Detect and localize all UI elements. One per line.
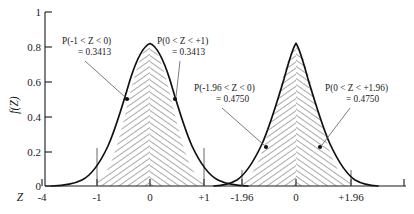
annotation-1-leader-line bbox=[85, 61, 125, 97]
y-tick-label-06: 0.6 bbox=[27, 76, 41, 88]
annotation-2-line-2: = 0.3413 bbox=[172, 47, 205, 57]
annotation-4-pointer-dot bbox=[318, 145, 322, 149]
annotation-left-curve-left-half: P(-1 < Z < 0) = 0.3413 bbox=[62, 36, 129, 101]
y-axis-title: f(Z) bbox=[8, 96, 21, 113]
right-shade-positive-half bbox=[296, 44, 360, 187]
normal-distribution-figure: 1 0.8 0.6 0.4 0.2 0 f(Z) -4 -1 0 +1 -1.9… bbox=[0, 0, 414, 214]
x-tick-label-neg4: -4 bbox=[37, 191, 47, 203]
y-tick-label-04: 0.4 bbox=[27, 111, 41, 123]
left-normal-curve-group bbox=[52, 44, 248, 187]
x-tick-label-neg196: -1.96 bbox=[231, 191, 254, 203]
x-tick-label-pos196: +1.96 bbox=[338, 191, 364, 203]
left-shade-positive-half bbox=[150, 44, 220, 186]
annotation-4-leader-line bbox=[322, 108, 350, 145]
chart-svg: 1 0.8 0.6 0.4 0.2 0 f(Z) -4 -1 0 +1 -1.9… bbox=[0, 0, 414, 214]
annotation-4-line-1: P(0 < Z < +1.96) bbox=[325, 83, 388, 94]
annotation-3-pointer-dot bbox=[264, 145, 268, 149]
y-tick-label-1: 1 bbox=[36, 6, 42, 18]
x-axis-title: Z bbox=[17, 191, 24, 203]
x-tick-label-zero-right: 0 bbox=[293, 191, 299, 203]
annotation-3-line-2: = 0.4750 bbox=[216, 94, 249, 104]
annotation-1-line-1: P(-1 < Z < 0) bbox=[62, 36, 111, 47]
annotation-1-line-2: = 0.3413 bbox=[78, 47, 111, 57]
annotation-3-leader-line bbox=[222, 108, 264, 145]
y-tick-label-08: 0.8 bbox=[27, 41, 41, 53]
annotation-2-line-1: P(0 < Z < +1) bbox=[157, 36, 208, 47]
annotation-2-pointer-dot bbox=[173, 97, 177, 101]
right-normal-curve-group bbox=[214, 43, 378, 186]
right-shade-negative-half bbox=[232, 44, 296, 187]
annotation-1-pointer-dot bbox=[125, 97, 129, 101]
annotation-2-leader-line bbox=[176, 61, 180, 97]
y-axis: 1 0.8 0.6 0.4 0.2 0 f(Z) bbox=[8, 6, 52, 192]
y-tick-label-02: 0.2 bbox=[27, 146, 41, 158]
annotation-right-curve-left-half: P(-1.96 < Z < 0) = 0.4750 bbox=[194, 83, 268, 149]
x-tick-label-pos1: +1 bbox=[198, 191, 210, 203]
left-shade-negative-half bbox=[80, 44, 150, 186]
annotation-4-line-2: = 0.4750 bbox=[346, 94, 379, 104]
x-tick-label-neg1: -1 bbox=[92, 191, 101, 203]
x-tick-label-zero-left: 0 bbox=[147, 191, 153, 203]
annotation-3-line-1: P(-1.96 < Z < 0) bbox=[194, 83, 255, 94]
